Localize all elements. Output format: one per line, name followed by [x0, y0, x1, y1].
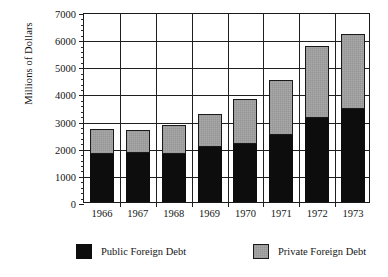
y-tick-mark-minor [81, 85, 84, 86]
bar-segment-private [269, 80, 293, 135]
x-tick-mark [299, 202, 300, 207]
y-tick-label: 6000 [55, 36, 76, 47]
y-tick-mark-minor [81, 182, 84, 183]
gridline-horizontal [84, 41, 369, 42]
legend-swatch-public-icon [76, 244, 92, 259]
bar-1973 [341, 34, 365, 202]
bar-segment-public [341, 109, 365, 202]
gridline-vertical [263, 14, 264, 202]
legend-label-private: Private Foreign Debt [278, 246, 366, 257]
y-tick-mark-minor [81, 57, 84, 58]
plot-inner: 01000200030004000500060007000 1966196719… [84, 14, 369, 202]
y-tick-label: 5000 [55, 63, 76, 74]
y-tick-mark [79, 150, 84, 151]
bar-1972 [305, 46, 329, 202]
y-tick-mark-minor [81, 133, 84, 134]
y-tick-mark-minor [81, 36, 84, 37]
x-tick-mark [335, 202, 336, 207]
y-tick-mark [79, 68, 84, 69]
y-tick-mark [79, 123, 84, 124]
y-tick-mark-minor [81, 139, 84, 140]
y-tick-mark-minor [81, 74, 84, 75]
gridline-vertical [192, 14, 193, 202]
y-tick-mark-minor [81, 112, 84, 113]
y-tick-mark-minor [81, 90, 84, 91]
y-tick-mark-minor [81, 144, 84, 145]
bar-segment-public [269, 135, 293, 202]
bar-segment-private [90, 129, 114, 154]
y-tick-mark-minor [81, 199, 84, 200]
chart-figure: Millions of Dollars 01000200030004000500… [0, 0, 388, 277]
x-tick-label: 1973 [343, 208, 364, 219]
chart-legend: Public Foreign Debt Private Foreign Debt [0, 240, 388, 270]
y-tick-mark-minor [81, 79, 84, 80]
y-tick-mark-minor [81, 171, 84, 172]
y-tick-label: 3000 [55, 117, 76, 128]
plot-area: 01000200030004000500060007000 1966196719… [83, 13, 370, 203]
bar-segment-private [162, 125, 186, 154]
bar-segment-private [126, 130, 150, 153]
y-tick-mark-minor [81, 166, 84, 167]
x-tick-label: 1972 [307, 208, 328, 219]
legend-swatch-private-icon [253, 244, 269, 259]
y-tick-mark-minor [81, 52, 84, 53]
y-tick-mark-minor [81, 106, 84, 107]
y-tick-mark-minor [81, 128, 84, 129]
bar-segment-public [126, 153, 150, 202]
y-tick-label: 4000 [55, 90, 76, 101]
x-tick-mark [156, 202, 157, 207]
y-tick-mark-minor [81, 47, 84, 48]
y-tick-label: 7000 [55, 9, 76, 20]
y-tick-mark-minor [81, 193, 84, 194]
y-tick-mark-minor [81, 25, 84, 26]
gridline-vertical [335, 14, 336, 202]
y-tick-mark-minor [81, 63, 84, 64]
x-tick-label: 1967 [127, 208, 148, 219]
y-tick-label: 0 [71, 199, 76, 210]
x-tick-mark [120, 202, 121, 207]
x-tick-label: 1971 [271, 208, 292, 219]
bar-segment-private [233, 99, 257, 144]
y-tick-mark-minor [81, 30, 84, 31]
y-tick-mark-minor [81, 19, 84, 20]
y-tick-mark [79, 14, 84, 15]
bar-segment-public [233, 144, 257, 202]
bar-segment-public [305, 118, 329, 202]
bar-1971 [269, 80, 293, 202]
x-tick-mark [228, 202, 229, 207]
y-tick-mark [79, 204, 84, 205]
y-tick-mark-minor [81, 117, 84, 118]
gridline-vertical [156, 14, 157, 202]
x-tick-mark [263, 202, 264, 207]
bar-1970 [233, 99, 257, 202]
bar-segment-public [198, 147, 222, 202]
gridline-vertical [120, 14, 121, 202]
legend-label-public: Public Foreign Debt [101, 246, 186, 257]
bar-segment-private [341, 34, 365, 109]
x-tick-mark [192, 202, 193, 207]
bar-1966 [90, 129, 114, 202]
legend-item-private: Private Foreign Debt [253, 240, 366, 262]
bar-segment-private [198, 114, 222, 147]
bar-1969 [198, 114, 222, 202]
bar-1968 [162, 125, 186, 202]
y-tick-mark-minor [81, 161, 84, 162]
bar-segment-public [90, 154, 114, 202]
x-tick-label: 1970 [235, 208, 256, 219]
bar-segment-private [305, 46, 329, 118]
gridline-vertical [299, 14, 300, 202]
y-tick-mark-minor [81, 188, 84, 189]
y-tick-mark [79, 41, 84, 42]
x-tick-label: 1968 [163, 208, 184, 219]
legend-item-public: Public Foreign Debt [76, 240, 186, 262]
y-tick-mark [79, 95, 84, 96]
bar-segment-public [162, 154, 186, 202]
bar-1967 [126, 130, 150, 202]
y-tick-mark-minor [81, 155, 84, 156]
gridline-vertical [228, 14, 229, 202]
y-tick-label: 1000 [55, 171, 76, 182]
x-tick-label: 1969 [199, 208, 220, 219]
y-axis-title: Millions of Dollars [23, 0, 34, 144]
x-tick-label: 1966 [91, 208, 112, 219]
y-tick-mark-minor [81, 101, 84, 102]
